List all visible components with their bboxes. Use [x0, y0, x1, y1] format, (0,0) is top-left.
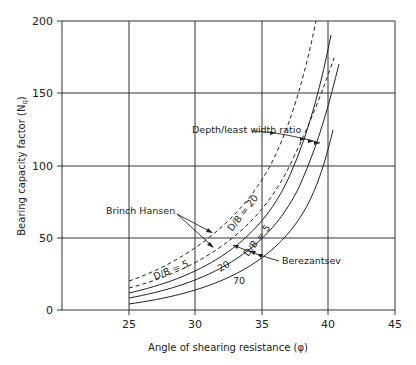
annotation-berezantsev: Berezantsev [282, 255, 341, 266]
ytick-100: 100 [32, 160, 53, 173]
xtick-30: 30 [188, 318, 202, 331]
y-axis-label: Bearing capacity factor (Nq) [16, 96, 29, 236]
xtick-35: 35 [255, 318, 269, 331]
label-bz-20: 20 [216, 258, 232, 274]
label-bz-70: 70 [233, 275, 245, 286]
ytick-50: 50 [39, 232, 53, 245]
xtick-40: 40 [321, 318, 335, 331]
x-axis-label: Angle of shearing resistance (φ) [148, 342, 308, 353]
ytick-0: 0 [46, 304, 53, 317]
curve-brinch-hansen-db20 [129, 21, 316, 281]
label-bh-db20: D/B = 20 [225, 192, 260, 233]
label-bh-db5: D/B = 5 [152, 258, 190, 282]
ytick-150: 150 [32, 87, 53, 100]
annotation-depth-ratio: Depth/least width ratio [192, 124, 301, 135]
chart: 200 150 100 50 0 25 30 35 40 45 Angle of… [0, 0, 416, 365]
grid [57, 21, 395, 315]
ytick-200: 200 [32, 15, 53, 28]
xtick-45: 45 [388, 318, 402, 331]
xtick-25: 25 [122, 318, 136, 331]
annotation-brinch-hansen: Brinch Hansen [106, 205, 175, 216]
